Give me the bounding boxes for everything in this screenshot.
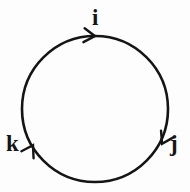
node-label-i: i	[92, 6, 98, 29]
node-label-j: j	[170, 132, 178, 155]
cycle-circle	[22, 36, 168, 182]
node-label-k: k	[6, 132, 19, 155]
diagram-canvas: i j k	[0, 0, 190, 192]
